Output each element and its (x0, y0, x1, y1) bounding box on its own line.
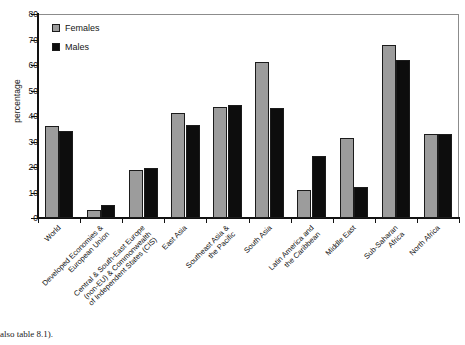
x-label-4: Southeast Asia & the Pacific (185, 224, 238, 277)
legend-swatch-females-icon (52, 24, 60, 32)
x-label-5: South Asia (242, 224, 273, 255)
bar-males-8 (396, 60, 410, 218)
legend-item-females[interactable]: Females (52, 20, 100, 35)
x-tick-mark (417, 218, 418, 223)
x-label-8: Sub-Saharan Africa (363, 224, 406, 267)
x-label-9: North Africa (408, 224, 442, 258)
x-label-3: East Asia (161, 224, 189, 252)
bar-males-9 (438, 134, 452, 218)
x-tick-mark (459, 218, 460, 223)
bar-females-9 (424, 134, 438, 218)
legend-label-males: Males (65, 42, 89, 52)
x-tick-mark (122, 218, 123, 223)
legend-item-males[interactable]: Males (52, 39, 100, 54)
x-tick-mark (249, 218, 250, 223)
bar-males-7 (354, 187, 368, 218)
y-axis-title: percentage (12, 61, 22, 141)
bar-females-6 (297, 190, 311, 218)
chart-legend: Females Males (52, 20, 100, 58)
bar-females-3 (171, 113, 185, 218)
bar-chart-figure: percentage 01020304050607080 Females Mal… (0, 0, 465, 345)
x-tick-mark (291, 218, 292, 223)
x-label-6: Latin America and the Caribbean (267, 224, 322, 279)
bar-females-2 (129, 170, 143, 218)
figure-caption: also table 8.1). (0, 329, 53, 339)
bar-males-3 (186, 125, 200, 218)
bar-females-8 (382, 45, 396, 218)
bar-males-6 (312, 156, 326, 218)
bar-females-4 (213, 107, 227, 218)
legend-swatch-males-icon (52, 43, 60, 51)
x-label-7: Middle East (324, 224, 358, 258)
bar-males-4 (228, 105, 242, 218)
bar-females-7 (340, 138, 354, 218)
x-tick-mark (206, 218, 207, 223)
bar-males-2 (144, 168, 158, 218)
bar-males-0 (59, 131, 73, 218)
bar-males-1 (101, 205, 115, 218)
x-label-0: World (43, 224, 63, 244)
x-tick-mark (164, 218, 165, 223)
legend-label-females: Females (65, 23, 100, 33)
bar-females-0 (45, 126, 59, 218)
bars-container (38, 14, 459, 218)
x-tick-mark (38, 218, 39, 223)
x-tick-mark (375, 218, 376, 223)
x-tick-mark (80, 218, 81, 223)
bar-males-5 (270, 108, 284, 218)
bar-females-1 (87, 210, 101, 218)
x-tick-mark (333, 218, 334, 223)
bar-females-5 (255, 62, 269, 218)
